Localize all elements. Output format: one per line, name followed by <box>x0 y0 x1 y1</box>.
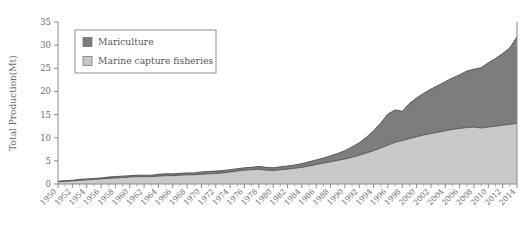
y-tick-label-10: 10 <box>40 133 51 143</box>
legend-label-mariculture: Mariculture <box>98 36 154 47</box>
y-tick-label-25: 25 <box>40 63 51 73</box>
y-tick-label-30: 30 <box>40 40 51 50</box>
legend-label-marine-capture-fisheries: Marine capture fisheries <box>98 55 213 66</box>
y-axis-title: Total Production(Mt) <box>8 55 18 150</box>
y-tick-label-5: 5 <box>46 156 51 166</box>
area-series-marine-capture-fisheries <box>58 123 517 184</box>
chart-container: 0510152025303519501952195419561958196019… <box>0 0 529 231</box>
stacked-area-chart: 0510152025303519501952195419561958196019… <box>0 0 529 231</box>
y-tick-label-35: 35 <box>40 17 51 27</box>
legend-swatch-marine-capture-fisheries <box>83 57 92 66</box>
legend-swatch-mariculture <box>83 38 92 47</box>
y-tick-label-0: 0 <box>46 179 51 189</box>
y-tick-label-15: 15 <box>40 110 51 120</box>
y-tick-label-20: 20 <box>40 86 51 96</box>
x-tick-label-2014: 2014 <box>497 187 517 207</box>
